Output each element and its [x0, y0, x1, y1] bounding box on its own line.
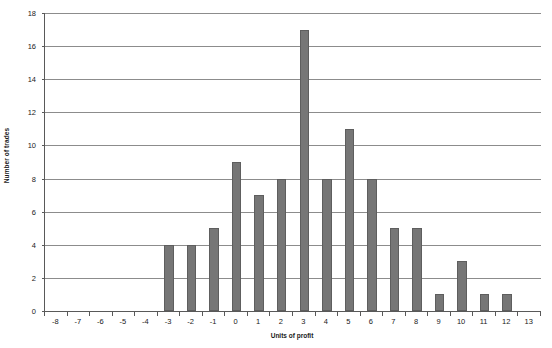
- y-axis-title: Number of trades: [0, 0, 14, 310]
- x-axis-tick-label: -6: [97, 317, 104, 326]
- y-axis-tick-label: 12: [28, 108, 36, 117]
- bar: [457, 261, 466, 311]
- x-axis-tick-label: 12: [502, 317, 510, 326]
- x-axis-tick-label: 7: [391, 317, 395, 326]
- y-axis-tick-label: 2: [32, 273, 36, 282]
- y-axis-tick-label: 14: [28, 75, 36, 84]
- y-axis-tick-labels: 024681012141618: [14, 0, 40, 348]
- x-axis-tick-label: 13: [525, 317, 533, 326]
- x-axis-tick-mark: [134, 312, 135, 316]
- bar: [435, 294, 444, 311]
- x-axis-tick-mark: [112, 312, 113, 316]
- x-axis-tick-mark: [337, 312, 338, 316]
- x-axis-tick-label: 2: [279, 317, 283, 326]
- y-axis-tick-label: 8: [32, 174, 36, 183]
- x-axis-tick-label: -3: [165, 317, 172, 326]
- x-axis-tick-mark: [450, 312, 451, 316]
- plot-area: [44, 13, 541, 312]
- x-axis-tick-mark: [224, 312, 225, 316]
- x-axis-tick-label: 10: [457, 317, 465, 326]
- x-axis-tick-mark: [89, 312, 90, 316]
- x-axis-tick-label: 9: [436, 317, 440, 326]
- x-axis-tick-label: 1: [256, 317, 260, 326]
- bar: [502, 294, 511, 311]
- x-axis-tick-mark: [540, 312, 541, 316]
- x-axis-tick-label: 6: [369, 317, 373, 326]
- y-axis-tick-label: 0: [32, 307, 36, 316]
- bar: [367, 179, 376, 311]
- x-axis-tick-label: -2: [187, 317, 194, 326]
- x-axis-tick-mark: [292, 312, 293, 316]
- x-axis-tick-mark: [382, 312, 383, 316]
- y-axis-tick-label: 18: [28, 9, 36, 18]
- x-axis-tick-mark: [44, 312, 45, 316]
- y-axis-tick-label: 4: [32, 240, 36, 249]
- bar: [300, 30, 309, 311]
- x-axis-tick-mark: [315, 312, 316, 316]
- histogram-chart: Number of trades 024681012141618 -8-7-6-…: [0, 0, 552, 348]
- bar: [412, 228, 421, 311]
- x-axis-tick-mark: [405, 312, 406, 316]
- x-axis-tick-labels: -8-7-6-5-4-3-2-1012345678910111213: [44, 317, 540, 331]
- x-axis-tick-label: -8: [52, 317, 59, 326]
- bar: [277, 179, 286, 311]
- x-axis-tick-label: -5: [120, 317, 127, 326]
- bar: [164, 245, 173, 311]
- x-axis-tick-mark: [67, 312, 68, 316]
- y-axis-title-label: Number of trades: [4, 127, 11, 182]
- bar: [232, 162, 241, 311]
- x-axis-tick-mark: [472, 312, 473, 316]
- bars-layer: [45, 13, 541, 311]
- bar: [345, 129, 354, 311]
- x-axis-tick-mark: [202, 312, 203, 316]
- y-axis-tick-label: 6: [32, 207, 36, 216]
- x-axis-tick-label: -1: [210, 317, 217, 326]
- x-axis-tick-mark: [269, 312, 270, 316]
- x-axis-title: Units of profit: [44, 332, 540, 339]
- x-axis-tick-mark: [157, 312, 158, 316]
- x-axis-tick-label: -7: [74, 317, 81, 326]
- x-axis-tick-label: -4: [142, 317, 149, 326]
- bar: [187, 245, 196, 311]
- x-axis-tick-mark: [247, 312, 248, 316]
- bar: [322, 179, 331, 311]
- x-axis-tick-label: 5: [346, 317, 350, 326]
- x-axis-tick-label: 4: [324, 317, 328, 326]
- y-axis-tick-label: 16: [28, 42, 36, 51]
- bar: [254, 195, 263, 311]
- bar: [209, 228, 218, 311]
- x-axis-tick-mark: [360, 312, 361, 316]
- bar: [480, 294, 489, 311]
- x-axis-tick-mark: [517, 312, 518, 316]
- x-axis-tick-label: 8: [414, 317, 418, 326]
- x-axis-tick-mark: [179, 312, 180, 316]
- x-axis-tick-label: 0: [234, 317, 238, 326]
- x-axis-tick-label: 3: [301, 317, 305, 326]
- y-axis-tick-label: 10: [28, 141, 36, 150]
- bar: [390, 228, 399, 311]
- x-axis-tick-mark: [495, 312, 496, 316]
- x-axis-tick-mark: [427, 312, 428, 316]
- x-axis-tick-label: 11: [480, 317, 488, 326]
